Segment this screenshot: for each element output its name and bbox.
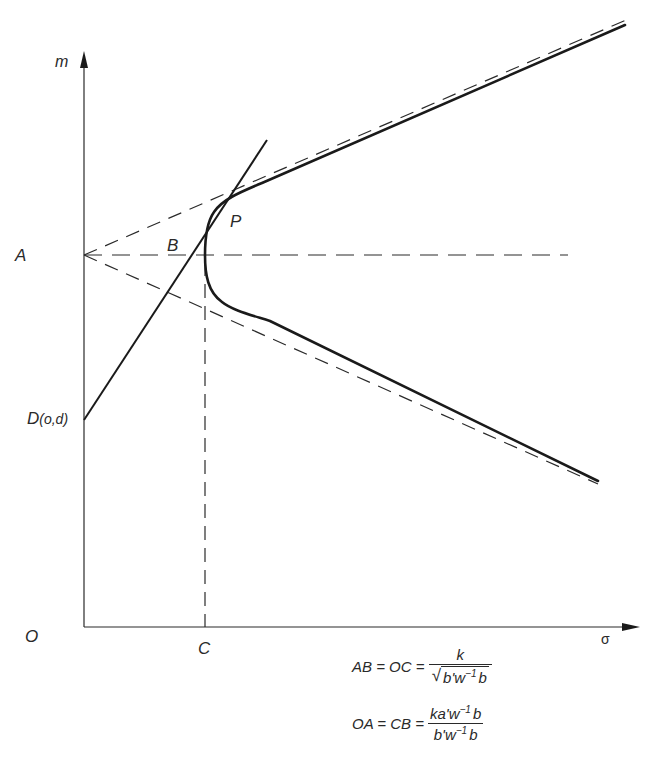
formula-1-denominator: √ b'w−1b [430, 665, 491, 686]
mean-variance-diagram [0, 0, 667, 759]
formula-1-lhs: AB = OC = [352, 658, 425, 675]
x-axis-label: σ [601, 632, 610, 646]
formula-2-numerator: ka'w−1b [428, 704, 483, 724]
y-axis [80, 51, 88, 627]
y-axis-arrow-icon [80, 51, 88, 68]
point-label-C: C [198, 640, 210, 657]
formula-1-numerator: k [429, 646, 493, 665]
point-label-A: A [15, 247, 26, 264]
formula-1-radicand: b'w−1b [441, 666, 489, 686]
formula-OA-CB: OA = CB = ka'w−1b b'w−1b [352, 704, 483, 743]
hyperbola-frontier [205, 25, 625, 481]
x-axis [84, 623, 640, 631]
formula-2-lhs: OA = CB = [352, 715, 424, 732]
y-axis-label: m [55, 54, 68, 70]
tangent-line-DP [84, 140, 267, 420]
point-label-P: P [230, 213, 241, 230]
point-label-B: B [167, 237, 178, 254]
formula-AB-OC: AB = OC = k √ b'w−1b [352, 646, 492, 686]
upper-asymptote [84, 20, 626, 255]
lower-asymptote [84, 255, 598, 484]
sqrt-icon: √ [432, 666, 441, 686]
point-label-D-letter: D [27, 409, 39, 428]
x-axis-arrow-icon [622, 623, 640, 631]
formula-1-fraction: k √ b'w−1b [429, 646, 493, 686]
origin-label: O [25, 628, 38, 645]
point-label-D: D(o,d) [27, 410, 68, 427]
formula-2-fraction: ka'w−1b b'w−1b [428, 704, 483, 743]
formula-2-denominator: b'w−1b [432, 724, 480, 743]
point-label-D-subscript: (o,d) [39, 411, 68, 427]
